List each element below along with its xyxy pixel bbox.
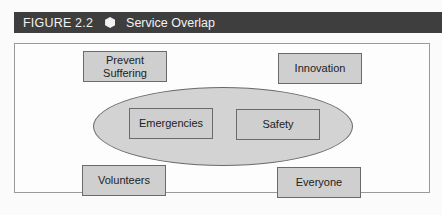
box-everyone: Everyone <box>277 167 361 198</box>
box-safety: Safety <box>236 109 320 140</box>
figure-title: Service Overlap <box>126 16 215 30</box>
figure-header: FIGURE 2.2 Service Overlap <box>14 12 442 33</box>
box-emergencies: Emergencies <box>129 108 213 139</box>
box-volunteers: Volunteers <box>82 165 166 196</box>
box-innovation: Innovation <box>278 53 362 84</box>
diagram-panel: Prevent Suffering Innovation Emergencies… <box>14 43 430 193</box>
figure-label: FIGURE 2.2 <box>23 16 93 30</box>
box-prevent-suffering: Prevent Suffering <box>83 51 167 82</box>
hexagon-icon <box>105 17 115 28</box>
